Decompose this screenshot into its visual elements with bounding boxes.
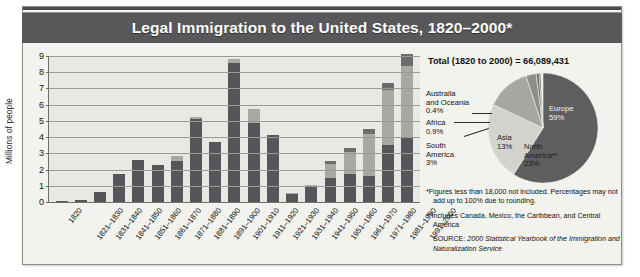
bar-1901–1910[interactable]: [228, 59, 240, 202]
bar-segment-lower-segment: [344, 174, 356, 202]
bar-segment-middle-segment: [325, 164, 337, 178]
bar-slot: [398, 56, 417, 202]
bar-slot: [186, 56, 205, 202]
bar-slot: [129, 56, 148, 202]
bar-chart: Millions of people 0123456789: [30, 56, 420, 206]
bar-1931–1940[interactable]: [286, 193, 298, 202]
bar-segment-lower-segment: [132, 160, 144, 202]
bar-segment-lower-segment: [94, 192, 106, 202]
bar-slot: [340, 56, 359, 202]
y-tick-label: 7: [39, 84, 44, 93]
bar-segment-middle-segment: [344, 152, 356, 175]
bar-1891–1900[interactable]: [209, 142, 221, 202]
bar-segment-lower-segment: [363, 176, 375, 202]
grid-line: [49, 105, 420, 106]
footnote-north-america: **Includes Canada, Mexico, the Caribbean…: [426, 212, 622, 231]
bar-segment-lower-segment: [305, 187, 317, 202]
bar-slot: [263, 56, 282, 202]
footnote-figures: *Figures less than 18,000 not included. …: [426, 188, 622, 207]
bar-segment-lower-segment: [75, 200, 87, 202]
pie-label-africa: Africa 0.9%: [426, 119, 445, 136]
bar-1951–1960[interactable]: [325, 161, 337, 202]
bar-1971–1980[interactable]: [363, 129, 375, 202]
leader-line-africa: [454, 122, 490, 123]
bar-segment-lower-segment: [209, 142, 221, 202]
bar-1820[interactable]: [56, 201, 68, 202]
grid-line: [49, 56, 420, 57]
y-axis-ticks: 0123456789: [30, 56, 46, 202]
bar-segment-lower-segment: [286, 194, 298, 202]
pie-label-australia: Australia and Oceania 0.4%: [426, 90, 469, 116]
footnotes: *Figures less than 18,000 not included. …: [426, 188, 622, 259]
bar-slot: [321, 56, 340, 202]
bar-1831–1840[interactable]: [94, 192, 106, 202]
y-tick-mark: [46, 88, 49, 89]
infographic-poster: Legal Immigration to the United States, …: [0, 0, 640, 277]
page-title: Legal Immigration to the United States, …: [132, 19, 513, 37]
y-tick-mark: [46, 202, 49, 203]
bar-1871–1880[interactable]: [171, 156, 183, 202]
bar-1981–1990[interactable]: [382, 83, 394, 202]
y-tick-label: 3: [39, 149, 44, 158]
bar-slot: [167, 56, 186, 202]
bar-segment-lower-segment: [248, 123, 260, 202]
x-axis-labels: 18201821–18301831–18401841–18501851–1860…: [48, 206, 420, 268]
total-immigration-label: Total (1820 to 2000) = 66,089,431: [428, 56, 624, 66]
bar-slot: [110, 56, 129, 202]
grid-line: [49, 72, 420, 73]
bar-1821–1830[interactable]: [75, 200, 87, 202]
bar-segment-lower-segment: [190, 119, 202, 202]
bar-slot: [71, 56, 90, 202]
bar-1941–1950[interactable]: [305, 185, 317, 202]
leader-line-australia: [472, 113, 492, 114]
pie-label-north-america: North America** 23%: [524, 143, 558, 169]
bar-slot: [90, 56, 109, 202]
bar-1841–1850[interactable]: [113, 174, 125, 202]
y-tick-mark: [46, 56, 49, 57]
bar-slot: [206, 56, 225, 202]
y-tick-mark: [46, 170, 49, 171]
y-tick-mark: [46, 186, 49, 187]
title-bar: Legal Immigration to the United States, …: [22, 12, 622, 43]
bar-slot: [359, 56, 378, 202]
bar-series-container: [49, 56, 420, 202]
grid-line: [49, 137, 420, 138]
y-axis-label: Millions of people: [4, 56, 18, 206]
y-tick-label: 0: [39, 198, 44, 207]
bar-slot: [148, 56, 167, 202]
bar-slot: [244, 56, 263, 202]
pie-chart: Australia and Oceania 0.4% Africa 0.9% S…: [424, 72, 622, 184]
pie-label-asia: Asia 13%: [497, 134, 512, 151]
grid-line: [49, 121, 420, 122]
bar-segment-lower-segment: [171, 161, 183, 202]
y-tick-label: 9: [39, 52, 44, 61]
source-note: SOURCE: 2000 Statistical Yearbook of the…: [426, 235, 622, 254]
grid-line: [49, 153, 420, 154]
bar-slot: [378, 56, 397, 202]
y-tick-mark: [46, 121, 49, 122]
y-tick-mark: [46, 153, 49, 154]
y-tick-mark: [46, 72, 49, 73]
bar-slot: [302, 56, 321, 202]
bar-1911–1920[interactable]: [248, 109, 260, 202]
grid-line: [49, 88, 420, 89]
source-prefix: SOURCE:: [433, 235, 467, 243]
y-tick-mark: [46, 105, 49, 106]
bar-segment-lower-segment: [56, 201, 68, 202]
bar-1851–1860[interactable]: [132, 160, 144, 202]
bar-segment-lower-segment: [228, 63, 240, 203]
bar-1961–1970[interactable]: [344, 148, 356, 202]
pie-label-south-america: South America 3%: [426, 142, 454, 168]
bar-1881–1890[interactable]: [190, 117, 202, 202]
grid-line: [49, 186, 420, 187]
bar-slot: [225, 56, 244, 202]
bar-segment-middle-segment: [401, 66, 413, 137]
bar-slot: [52, 56, 71, 202]
y-tick-label: 4: [39, 133, 44, 142]
bar-slot: [282, 56, 301, 202]
bar-1991–2000[interactable]: [401, 54, 413, 202]
y-tick-label: 6: [39, 100, 44, 109]
y-tick-label: 2: [39, 165, 44, 174]
bar-segment-lower-segment: [325, 178, 337, 202]
y-tick-label: 1: [39, 181, 44, 190]
